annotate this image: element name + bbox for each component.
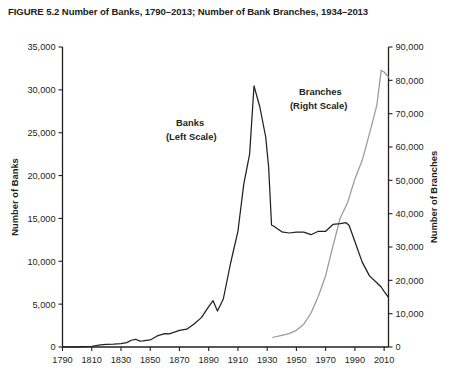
x-tick-label: 1850 xyxy=(140,355,160,365)
x-tick-label: 1990 xyxy=(345,355,365,365)
annotation-banks-line1: Banks xyxy=(176,117,204,128)
x-tick-label: 1790 xyxy=(52,355,72,365)
x-tick-label: 1970 xyxy=(315,355,335,365)
x-tick-label: 1890 xyxy=(198,355,218,365)
series-line-banks xyxy=(63,86,389,347)
left-tick-label: 15,000 xyxy=(27,214,55,224)
x-axis-tick-labels: 1790181018301850187018901910193019501970… xyxy=(52,355,394,365)
right-tick-label: 90,000 xyxy=(396,42,424,52)
left-axis: 05,00010,00015,00020,00025,00030,00035,0… xyxy=(27,42,62,352)
left-tick-label: 35,000 xyxy=(27,42,55,52)
left-axis-title: Number of Banks xyxy=(9,158,20,236)
x-tick-label: 1810 xyxy=(82,355,102,365)
left-tick-label: 5,000 xyxy=(33,300,56,310)
left-tick-label: 30,000 xyxy=(27,85,55,95)
right-tick-label: 30,000 xyxy=(396,242,424,252)
right-axis-tick-labels: 010,00020,00030,00040,00050,00060,00070,… xyxy=(396,42,424,352)
annotation-branches-line2: (Right Scale) xyxy=(290,100,347,111)
x-tick-label: 1910 xyxy=(228,355,248,365)
left-tick-label: 20,000 xyxy=(27,171,55,181)
x-axis: 1790181018301850187018901910193019501970… xyxy=(52,347,394,365)
chart-svg: 05,00010,00015,00020,00025,00030,00035,0… xyxy=(0,0,451,384)
chart-plot-area: 05,00010,00015,00020,00025,00030,00035,0… xyxy=(0,0,451,384)
right-tick-label: 10,000 xyxy=(396,309,424,319)
left-axis-tick-labels: 05,00010,00015,00020,00025,00030,00035,0… xyxy=(27,42,55,352)
left-tick-label: 10,000 xyxy=(27,257,55,267)
right-tick-label: 80,000 xyxy=(396,76,424,86)
left-tick-label: 25,000 xyxy=(27,128,55,138)
left-tick-label: 0 xyxy=(50,342,55,352)
x-tick-label: 1950 xyxy=(286,355,306,365)
right-axis: 010,00020,00030,00040,00050,00060,00070,… xyxy=(389,42,424,352)
right-axis-title: Number of Branches xyxy=(428,151,439,243)
x-tick-label: 1830 xyxy=(111,355,131,365)
right-tick-label: 20,000 xyxy=(396,276,424,286)
x-tick-label: 1930 xyxy=(257,355,277,365)
figure-root: FIGURE 5.2 Number of Banks, 1790–2013; N… xyxy=(0,0,451,384)
annotation-banks-line2: (Left Scale) xyxy=(166,131,217,142)
annotation-branches-line1: Branches xyxy=(299,86,342,97)
x-tick-label: 1870 xyxy=(169,355,189,365)
right-tick-label: 40,000 xyxy=(396,209,424,219)
right-tick-label: 0 xyxy=(396,342,401,352)
right-tick-label: 70,000 xyxy=(396,109,424,119)
right-tick-label: 50,000 xyxy=(396,176,424,186)
right-tick-label: 60,000 xyxy=(396,142,424,152)
x-tick-label: 2010 xyxy=(374,355,394,365)
